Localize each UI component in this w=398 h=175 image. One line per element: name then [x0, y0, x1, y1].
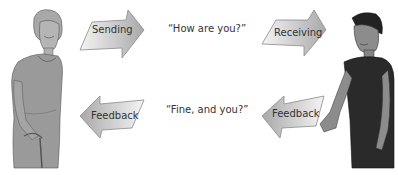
- feedback-right-label: Feedback: [272, 108, 320, 119]
- feedback-left-label: Feedback: [91, 110, 139, 121]
- message-how-are-you: “How are you?”: [168, 23, 246, 34]
- sending-arrow: [76, 8, 148, 62]
- woman-sender-figure: [0, 0, 70, 175]
- sending-label: Sending: [92, 24, 133, 35]
- receiving-label: Receiving: [274, 27, 322, 38]
- message-fine-and-you: “Fine, and you?”: [166, 104, 248, 115]
